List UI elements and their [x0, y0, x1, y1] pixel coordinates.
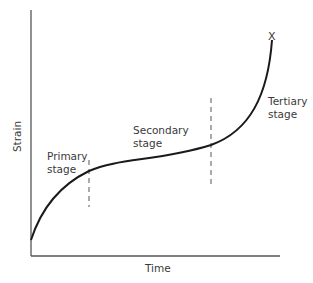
tertiary-stage-label: Tertiary stage [268, 95, 307, 121]
y-axis-label: Strain [11, 117, 24, 157]
x-axis-label: Time [145, 262, 171, 275]
primary-stage-label: Primary stage [47, 150, 88, 176]
fracture-marker: X [268, 30, 276, 43]
secondary-stage-label: Secondary stage [133, 124, 189, 150]
